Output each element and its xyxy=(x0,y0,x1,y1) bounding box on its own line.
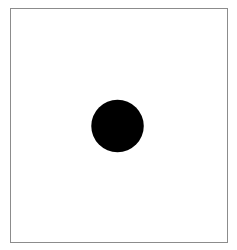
plot-area xyxy=(11,9,227,242)
black-circle-marker xyxy=(91,100,144,153)
plot-svg xyxy=(11,9,227,242)
figure-canvas xyxy=(0,0,237,250)
figure-frame-border xyxy=(10,8,228,243)
